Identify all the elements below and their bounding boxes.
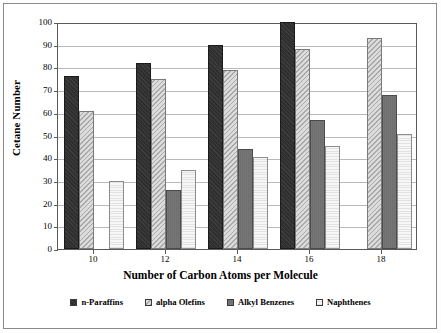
legend-swatch-icon <box>70 299 77 306</box>
x-tick-mark <box>93 250 94 254</box>
legend-item[interactable]: Alkyl Benzenes <box>227 297 294 307</box>
bar <box>181 170 196 249</box>
y-tick-mark <box>54 159 58 160</box>
legend-swatch-icon <box>316 299 323 306</box>
chart-legend: n-Paraffinsalpha OlefinsAlkyl BenzenesNa… <box>0 297 441 307</box>
x-tick-label: 10 <box>73 254 113 264</box>
bar-cluster <box>202 24 274 249</box>
x-tick-label: 16 <box>289 254 329 264</box>
x-tick-mark <box>237 250 238 254</box>
y-tick-mark <box>54 182 58 183</box>
chart-figure: Cetane Number 0102030405060708090100 101… <box>0 0 441 333</box>
bar <box>310 120 325 249</box>
bar <box>382 95 397 249</box>
bar-cluster <box>130 24 202 249</box>
bar <box>136 63 151 249</box>
bar <box>367 38 382 249</box>
x-axis-title: Number of Carbon Atoms per Molecule <box>0 269 441 281</box>
bar-cluster <box>346 24 418 249</box>
bar <box>295 49 310 249</box>
x-tick-mark <box>381 250 382 254</box>
y-tick-mark <box>54 227 58 228</box>
x-tick-label: 14 <box>217 254 257 264</box>
y-axis-title: Cetane Number <box>10 58 22 178</box>
bar <box>109 181 124 249</box>
x-tick-label: 18 <box>361 254 401 264</box>
y-tick-mark <box>54 205 58 206</box>
legend-item[interactable]: n-Paraffins <box>70 297 123 307</box>
bar <box>280 22 295 249</box>
bar <box>253 157 268 249</box>
bar <box>325 146 340 249</box>
bar <box>79 111 94 249</box>
legend-label: alpha Olefins <box>156 297 205 307</box>
y-tick-mark <box>54 137 58 138</box>
bar <box>397 134 412 249</box>
bar-cluster <box>274 24 346 249</box>
bar <box>238 149 253 249</box>
x-tick-mark <box>309 250 310 254</box>
bar <box>151 79 166 249</box>
bar-cluster <box>58 24 130 249</box>
legend-label: n-Paraffins <box>81 297 123 307</box>
legend-swatch-icon <box>145 299 152 306</box>
legend-swatch-icon <box>227 299 234 306</box>
bar <box>223 70 238 249</box>
y-tick-mark <box>54 114 58 115</box>
legend-label: Alkyl Benzenes <box>238 297 294 307</box>
legend-label: Naphthenes <box>327 297 370 307</box>
y-tick-mark <box>54 23 58 24</box>
bar <box>208 45 223 249</box>
y-tick-mark <box>54 91 58 92</box>
bar <box>64 76 79 249</box>
plot-area <box>57 23 417 250</box>
legend-item[interactable]: alpha Olefins <box>145 297 205 307</box>
bar <box>166 190 181 249</box>
y-tick-mark <box>54 68 58 69</box>
x-tick-label: 12 <box>145 254 185 264</box>
y-tick-mark <box>54 250 58 251</box>
x-tick-mark <box>165 250 166 254</box>
y-tick-mark <box>54 46 58 47</box>
legend-item[interactable]: Naphthenes <box>316 297 370 307</box>
